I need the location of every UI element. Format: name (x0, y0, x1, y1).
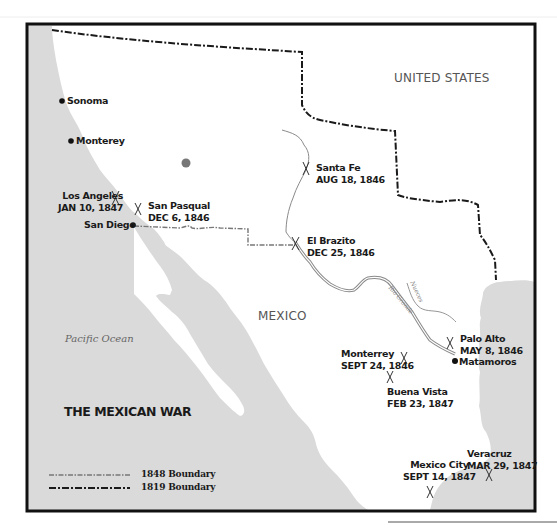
battle-label-monterrey: Monterrey SEPT 24, 1846 (341, 348, 414, 371)
battle-date: DEC 25, 1846 (307, 247, 375, 259)
battle-date: MAR 29, 1847 (467, 460, 537, 472)
battle-label-palo-alto: Palo Alto MAY 8, 1846 (460, 333, 523, 356)
battle-name: Los Angeles (58, 190, 123, 202)
legend-label-1848: 1848 Boundary (141, 469, 215, 479)
battle-name: Palo Alto (460, 333, 523, 345)
city-dot-matamoros (452, 358, 458, 364)
battle-date: AUG 18, 1846 (316, 174, 385, 186)
battle-date: SEPT 24, 1846 (341, 360, 414, 372)
battle-label-san-pasqual: San Pasqual DEC 6, 1846 (148, 200, 210, 223)
battle-date: MAY 8, 1846 (460, 345, 523, 357)
city-label-san-diego: San Diego (84, 219, 136, 231)
battle-name: El Brazito (307, 235, 375, 247)
battle-date: FEB 23, 1847 (387, 398, 454, 410)
battle-name: Buena Vista (387, 386, 454, 398)
battle-label-los-angeles: Los Angeles JAN 10, 1847 (58, 190, 123, 213)
map-title: THE MEXICAN WAR (64, 404, 191, 419)
city-label-matamoros: Matamoros (459, 356, 516, 368)
city-dot-monterey (68, 138, 74, 144)
battle-label-veracruz: Veracruz MAR 29, 1847 (467, 448, 537, 471)
country-label-mexico: MEXICO (258, 309, 307, 323)
ocean-label-pacific: Pacific Ocean (65, 333, 134, 344)
battle-name: Mexico City (403, 459, 476, 471)
battle-label-mexico-city: Mexico City SEPT 14, 1847 (403, 459, 476, 482)
city-dot-sonoma (59, 98, 65, 104)
battle-name: Santa Fe (316, 162, 385, 174)
battle-name: Veracruz (467, 448, 537, 460)
battle-name: Monterrey (341, 348, 414, 360)
map-marker-dot (182, 159, 191, 168)
battle-label-santa-fe: Santa Fe AUG 18, 1846 (316, 162, 385, 185)
country-label-united-states: UNITED STATES (394, 71, 490, 85)
battle-label-buena-vista: Buena Vista FEB 23, 1847 (387, 386, 454, 409)
battle-name: San Pasqual (148, 200, 210, 212)
battle-date: JAN 10, 1847 (58, 202, 123, 214)
battle-date: SEPT 14, 1847 (403, 471, 476, 483)
battle-label-el-brazito: El Brazito DEC 25, 1846 (307, 235, 375, 258)
mexican-war-map: UNITED STATES MEXICO Pacific Ocean Rio G… (0, 0, 557, 531)
city-label-sonoma: Sonoma (67, 95, 108, 107)
battle-date: DEC 6, 1846 (148, 212, 210, 224)
legend-label-1819: 1819 Boundary (141, 482, 215, 492)
city-label-monterey: Monterey (76, 135, 125, 147)
